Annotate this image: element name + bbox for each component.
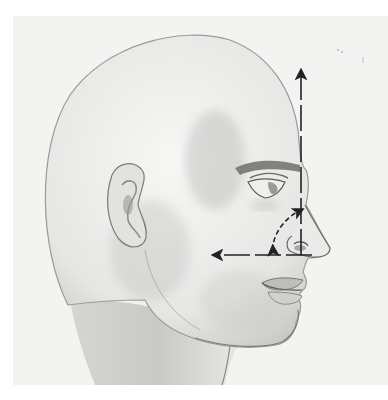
paper-specks — [337, 49, 363, 63]
head-profile-illustration — [0, 0, 388, 400]
